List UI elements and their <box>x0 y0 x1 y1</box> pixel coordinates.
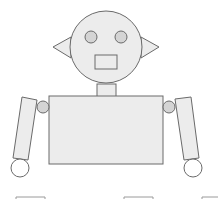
torso <box>49 96 163 164</box>
left-ear <box>53 37 71 58</box>
right-eye <box>115 31 127 43</box>
robot-diagram <box>0 0 218 199</box>
right-shoulder <box>163 101 175 113</box>
left-shoulder <box>37 101 49 113</box>
neck <box>97 84 116 97</box>
left-eye <box>85 31 97 43</box>
right-hand <box>184 159 202 177</box>
head <box>70 11 142 83</box>
right-arm <box>175 97 199 160</box>
right-ear <box>141 37 159 58</box>
mouth <box>95 55 117 69</box>
bottom-marker-left <box>16 197 45 199</box>
left-hand <box>11 159 29 177</box>
bottom-marker-center <box>124 197 153 199</box>
left-arm <box>13 97 37 160</box>
bottom-marker-right <box>202 197 218 199</box>
